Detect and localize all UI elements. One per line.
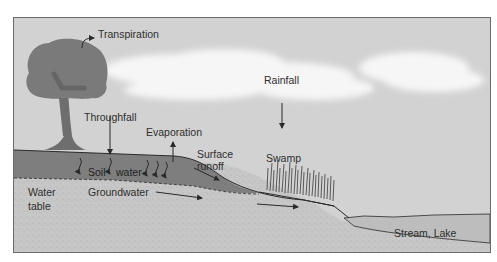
label-water-table-1: Water bbox=[28, 186, 56, 198]
label-water-table-2: table bbox=[28, 200, 51, 212]
label-rainfall: Rainfall bbox=[264, 74, 299, 86]
label-groundwater: Groundwater bbox=[88, 186, 149, 198]
label-stream-lake: Stream, Lake bbox=[394, 227, 456, 239]
label-throughfall: Throughfall bbox=[84, 111, 137, 123]
label-transpiration: Transpiration bbox=[98, 28, 159, 40]
label-water: water bbox=[116, 166, 142, 178]
label-runoff: runoff bbox=[197, 160, 224, 172]
tree-icon bbox=[26, 39, 107, 150]
label-surface: Surface bbox=[197, 148, 233, 160]
label-soil: Soil bbox=[88, 166, 106, 178]
label-swamp: Swamp bbox=[266, 152, 301, 164]
label-evaporation: Evaporation bbox=[146, 126, 202, 138]
diagram-canvas bbox=[14, 18, 490, 252]
water-cycle-diagram: Transpiration Rainfall Throughfall Evapo… bbox=[13, 17, 491, 253]
